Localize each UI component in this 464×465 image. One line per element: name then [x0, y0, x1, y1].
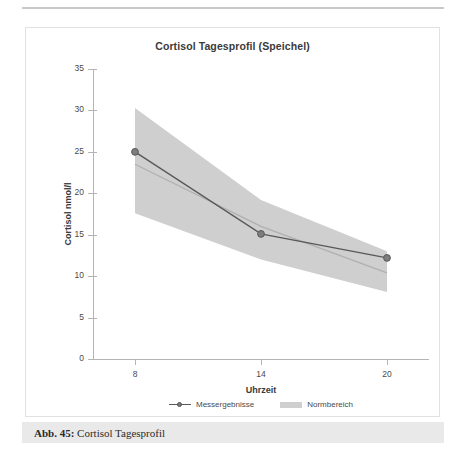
- y-tick: 15: [88, 235, 97, 236]
- legend-item-normbereich: Normbereich: [280, 400, 353, 409]
- figure-caption: Abb. 45: Cortisol Tagesprofil: [22, 427, 165, 439]
- figure-caption-number: Abb. 45:: [34, 427, 74, 439]
- y-tick-label: 30: [75, 104, 84, 114]
- y-tick: 35: [88, 69, 97, 70]
- y-tick: 10: [88, 276, 97, 277]
- y-axis-title: Cortisol nmol/l: [63, 183, 73, 246]
- y-tick-mark: [88, 152, 97, 153]
- chart-figure-frame: Cortisol Tagesprofil (Speichel) 05101520…: [25, 27, 440, 417]
- legend-label-normbereich: Normbereich: [307, 400, 353, 409]
- figure-page: Cortisol Tagesprofil (Speichel) 05101520…: [0, 0, 464, 465]
- line-marker-icon: [169, 401, 191, 408]
- y-tick-label: 0: [79, 353, 84, 363]
- legend-label-messergebnisse: Messergebnisse: [196, 400, 254, 409]
- y-tick-mark: [88, 110, 97, 111]
- y-tick-mark: [88, 318, 97, 319]
- y-tick: 0: [88, 359, 97, 360]
- y-tick-label: 20: [75, 187, 84, 197]
- figure-caption-bar: Abb. 45: Cortisol Tagesprofil: [22, 422, 444, 443]
- y-tick-mark: [88, 193, 97, 194]
- y-tick-label: 10: [75, 270, 84, 280]
- x-tick-mark: [261, 359, 262, 365]
- y-tick-label: 15: [75, 229, 84, 239]
- y-tick-mark: [88, 359, 97, 360]
- normbereich-band: [135, 108, 387, 292]
- figure-caption-title: Cortisol Tagesprofil: [77, 427, 165, 439]
- y-tick-label: 5: [79, 312, 84, 322]
- x-tick-mark: [135, 359, 136, 365]
- x-tick-label: 8: [120, 369, 150, 379]
- data-point-marker: [132, 148, 139, 155]
- legend-item-messergebnisse: Messergebnisse: [169, 400, 254, 409]
- y-tick-mark: [88, 69, 97, 70]
- y-tick: 5: [88, 318, 97, 319]
- y-tick: 20: [88, 193, 97, 194]
- x-tick-mark: [387, 359, 388, 365]
- band-polygon: [135, 108, 387, 292]
- y-tick-mark: [88, 276, 97, 277]
- data-point-marker: [258, 230, 265, 237]
- plot-area: 05101520253035 81420 Cortisol nmol/l Uhr…: [26, 28, 441, 418]
- x-axis-title: Uhrzeit: [93, 385, 429, 395]
- x-tick-label: 20: [372, 369, 402, 379]
- y-tick-mark: [88, 235, 97, 236]
- band-swatch-icon: [280, 402, 302, 408]
- y-tick-label: 35: [75, 63, 84, 73]
- data-point-marker: [384, 255, 391, 262]
- y-tick: 25: [88, 152, 97, 153]
- x-tick-label: 14: [246, 369, 276, 379]
- y-axis-line: [93, 69, 94, 360]
- y-tick-label: 25: [75, 146, 84, 156]
- page-divider: [22, 7, 444, 9]
- y-tick: 30: [88, 110, 97, 111]
- chart-legend: Messergebnisse Normbereich: [93, 400, 429, 409]
